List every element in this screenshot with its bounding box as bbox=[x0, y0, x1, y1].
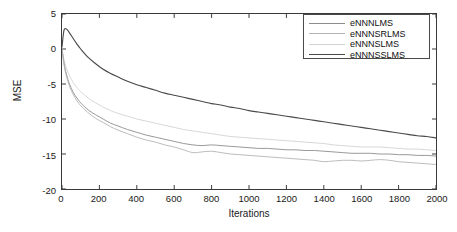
legend-label: eNNNSRLMS bbox=[350, 29, 406, 39]
legend-item-ennnsslms: eNNNSSLMS bbox=[304, 50, 429, 60]
legend-item-ennnslms: eNNNSLMS bbox=[304, 39, 429, 49]
x-axis-title: Iterations bbox=[61, 208, 437, 219]
x-tick-label: 400 bbox=[128, 193, 144, 204]
x-tick-label: 1000 bbox=[238, 193, 259, 204]
x-tick-label: 1400 bbox=[314, 193, 335, 204]
chart-legend: eNNNLMSeNNNSRLMSeNNNSLMSeNNNSSLMS bbox=[303, 14, 430, 59]
legend-swatch-icon bbox=[309, 33, 345, 34]
legend-item-ennnsrlms: eNNNSRLMS bbox=[304, 29, 429, 39]
x-tick-label: 2000 bbox=[426, 193, 447, 204]
legend-label: eNNNLMS bbox=[350, 18, 393, 28]
legend-item-ennnlms: eNNNLMS bbox=[304, 18, 429, 28]
x-tick-label: 200 bbox=[91, 193, 107, 204]
y-axis-title: MSE bbox=[12, 61, 23, 121]
legend-label: eNNNSLMS bbox=[350, 39, 399, 49]
x-tick-label: 1800 bbox=[389, 193, 410, 204]
x-tick-label: 600 bbox=[166, 193, 182, 204]
x-tick-label: 800 bbox=[203, 193, 219, 204]
chart-figure: 50-5-10-15-20 02004006008001000120014001… bbox=[0, 0, 457, 232]
x-tick-label: 0 bbox=[58, 193, 63, 204]
legend-swatch-icon bbox=[309, 54, 345, 55]
legend-swatch-icon bbox=[309, 44, 345, 45]
series-line-ennnlms bbox=[62, 49, 436, 156]
legend-label: eNNNSSLMS bbox=[350, 50, 405, 60]
x-tick-label: 1200 bbox=[276, 193, 297, 204]
x-tick-label: 1600 bbox=[351, 193, 372, 204]
series-line-ennnslms bbox=[62, 49, 436, 151]
legend-swatch-icon bbox=[309, 23, 345, 24]
